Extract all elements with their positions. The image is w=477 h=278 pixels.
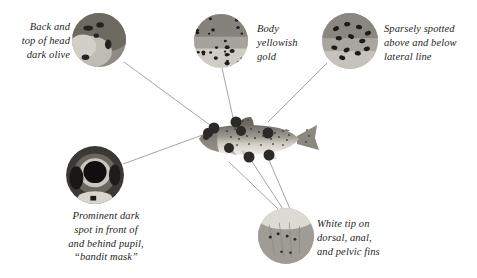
marker-flank bbox=[236, 126, 246, 136]
marker-anal-fin bbox=[244, 152, 255, 163]
figure-canvas: Back and top of head dark oliveBody yell… bbox=[0, 0, 477, 278]
marker-caudal-peduncle bbox=[264, 150, 275, 161]
caption-back-and-top-of-head: Back and top of head dark olive bbox=[8, 20, 70, 61]
marker-dorsal-fin bbox=[231, 117, 242, 128]
caption-sparsely-spotted: Sparsely spotted above and below lateral… bbox=[384, 22, 476, 63]
marker-lateral-line bbox=[263, 128, 274, 139]
caption-prominent-dark-spot: Prominent dark spot in front of and behi… bbox=[52, 209, 160, 264]
marker-eye bbox=[203, 128, 213, 138]
caption-white-tip-fins: White tip on dorsal, anal, and pelvic fi… bbox=[317, 217, 403, 258]
caption-body-yellowish-gold: Body yellowish gold bbox=[257, 22, 319, 63]
marker-pelvic-fin bbox=[224, 143, 234, 153]
